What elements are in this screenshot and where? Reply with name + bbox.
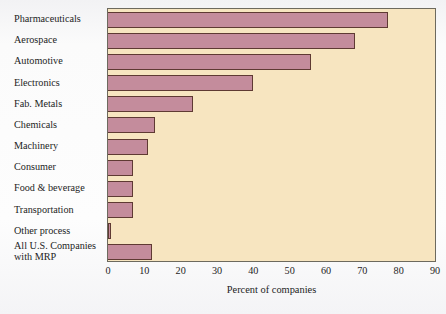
table-row	[108, 160, 435, 176]
bars-container	[108, 9, 435, 261]
x-tick-label: 90	[430, 265, 440, 276]
x-tick-label: 20	[176, 265, 186, 276]
bar	[108, 117, 155, 133]
bar	[108, 181, 133, 197]
table-row	[108, 54, 435, 70]
bar	[108, 96, 193, 112]
category-label: Aerospace	[0, 34, 104, 45]
horizontal-bar-chart: PharmaceuticalsAerospaceAutomotiveElectr…	[0, 0, 446, 314]
table-row	[108, 139, 435, 155]
table-row	[108, 33, 435, 49]
bar	[108, 160, 133, 176]
bar	[108, 244, 152, 260]
category-label: Consumer	[0, 161, 104, 172]
bar	[108, 75, 253, 91]
bar	[108, 12, 388, 28]
x-tick-label: 10	[139, 265, 149, 276]
x-axis-tick-labels: 0102030405060708090	[107, 262, 436, 284]
x-tick-label: 70	[357, 265, 367, 276]
x-tick-label: 50	[285, 265, 295, 276]
x-tick-label: 60	[321, 265, 331, 276]
table-row	[108, 202, 435, 218]
category-label: Machinery	[0, 140, 104, 151]
table-row	[108, 96, 435, 112]
table-row	[108, 223, 435, 239]
table-row	[108, 181, 435, 197]
category-label: Pharmaceuticals	[0, 13, 104, 24]
category-label: All U.S. Companies with MRP	[0, 240, 104, 262]
x-tick-label: 80	[394, 265, 404, 276]
category-label: Electronics	[0, 77, 104, 88]
category-label: Food & beverage	[0, 182, 104, 193]
bar	[108, 223, 111, 239]
category-label: Fab. Metals	[0, 98, 104, 109]
x-tick-label: 0	[105, 265, 110, 276]
table-row	[108, 75, 435, 91]
x-tick-label: 30	[212, 265, 222, 276]
bar	[108, 54, 311, 70]
category-label: Other process	[0, 225, 104, 236]
category-label: Automotive	[0, 55, 104, 66]
table-row	[108, 117, 435, 133]
bar	[108, 202, 133, 218]
bar	[108, 33, 355, 49]
category-label: Chemicals	[0, 119, 104, 130]
table-row	[108, 244, 435, 260]
x-tick-label: 40	[248, 265, 258, 276]
category-label: Transportation	[0, 204, 104, 215]
bar	[108, 139, 148, 155]
table-row	[108, 12, 435, 28]
plot-area	[107, 8, 436, 262]
x-axis-title: Percent of companies	[107, 284, 436, 295]
category-axis-labels: PharmaceuticalsAerospaceAutomotiveElectr…	[0, 8, 106, 262]
